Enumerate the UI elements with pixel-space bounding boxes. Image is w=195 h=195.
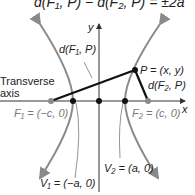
point-p [132,67,138,73]
vertex-v1-label: V₁ = (−a, 0) [40,178,95,189]
vertex-v2-label: V₂ = (a, 0) [104,163,154,174]
x-axis-label: x [182,104,188,115]
d-f1-p-label: d(F₁, P) [59,44,96,55]
leader-v2 [119,103,123,158]
focus-f2-label: F₂ = (c, 0) [132,108,181,119]
focus-f1-point [48,98,54,104]
hyperbola-equation: d(F₁, P) − d(F₂, P) = ±2a [34,0,184,9]
hyperbola-diagram [0,0,195,195]
d-f2-p-label: d(F₂, P) [148,80,186,91]
point-p-label: P = (x, y) [140,65,184,76]
segment-f1-p [51,70,135,101]
origin-point [96,98,102,104]
focus-f2-point [145,98,151,104]
vertex-v1-point [70,98,76,104]
vertex-v2-point [122,98,128,104]
leader-d-f1-p [84,62,92,78]
transverse-axis-label-line1: Transverse [0,76,55,87]
focus-f1-label: F₁ = (−c, 0) [14,108,68,119]
y-axis-label: y [88,22,94,33]
transverse-axis-label-line2: axis [0,88,20,99]
leader-v1 [75,103,79,178]
